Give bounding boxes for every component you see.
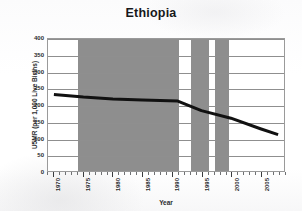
x-tick-1982 [124,172,125,175]
x-tick-label-2005: 2005 [264,178,270,191]
x-tick-1990 [172,172,173,177]
y-tick-label-250: 250 [34,85,44,91]
x-tick-1994 [196,172,197,175]
y-axis-tick-labels: 050100150200250300350400 [24,38,44,172]
x-tick-1999 [226,172,227,175]
series-line-layer [48,39,284,171]
x-tick-label-1970: 1970 [55,178,61,191]
x-tick-1973 [71,172,72,175]
y-tick-label-150: 150 [34,119,44,125]
x-tick-1971 [59,172,60,175]
x-tick-1986 [148,172,149,175]
x-tick-label-1985: 1985 [145,178,151,191]
x-tick-1972 [65,172,66,175]
x-tick-1976 [89,172,90,175]
x-tick-1979 [107,172,108,175]
x-tick-label-1975: 1975 [85,178,91,191]
y-tick-label-0: 0 [41,169,44,175]
series-line-u5mr [54,94,278,134]
x-tick-2005 [261,172,262,177]
x-tick-1983 [130,172,131,175]
x-tick-1978 [101,172,102,175]
x-tick-label-1995: 1995 [204,178,210,191]
x-tick-1991 [178,172,179,175]
x-axis-title: Year [47,199,285,206]
x-tick-1988 [160,172,161,175]
x-tick-1974 [77,172,78,175]
x-axis-tick-labels: 19701975198019851990199520002005 [47,178,285,200]
x-tick-1987 [154,172,155,175]
x-tick-1989 [166,172,167,175]
y-tick-label-100: 100 [34,136,44,142]
x-tick-1977 [95,172,96,175]
x-tick-2007 [273,172,274,175]
chart-title: Ethiopia [0,6,302,20]
y-tick-label-350: 350 [34,52,44,58]
x-tick-2002 [243,172,244,175]
x-tick-label-1990: 1990 [174,178,180,191]
x-tick-1969 [47,172,48,175]
x-tick-2001 [237,172,238,175]
x-tick-1984 [136,172,137,175]
x-tick-2008 [279,172,280,175]
x-tick-1993 [190,172,191,175]
y-tick-label-200: 200 [34,102,44,108]
x-tick-1980 [112,172,113,177]
x-tick-1997 [214,172,215,175]
x-tick-1981 [118,172,119,175]
x-tick-2004 [255,172,256,175]
x-tick-label-2000: 2000 [234,178,240,191]
x-tick-2009 [285,172,286,175]
x-tick-1998 [220,172,221,175]
x-tick-1970 [53,172,54,177]
x-tick-1992 [184,172,185,175]
x-tick-label-1980: 1980 [115,178,121,191]
y-tick-label-300: 300 [34,69,44,75]
x-tick-1985 [142,172,143,177]
x-tick-1995 [202,172,203,177]
chart-figure: Ethiopia U5MR (per 1,000 Live Births) 05… [0,0,302,211]
x-tick-1996 [208,172,209,175]
y-tick-label-400: 400 [34,35,44,41]
x-tick-2003 [249,172,250,175]
x-tick-2000 [231,172,232,177]
y-tick-label-50: 50 [37,152,44,158]
x-tick-1975 [83,172,84,177]
x-tick-2006 [267,172,268,175]
plot-area [47,38,285,172]
